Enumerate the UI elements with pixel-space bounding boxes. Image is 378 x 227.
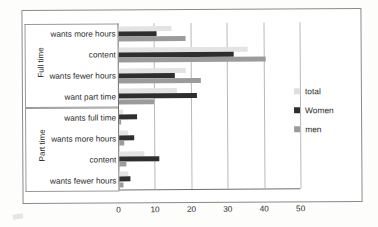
bar-men [119, 78, 201, 84]
category-label: wants fewer hours [49, 71, 116, 80]
bar-men [119, 120, 121, 125]
bar-men [119, 182, 123, 187]
x-axis-line [119, 188, 301, 190]
category-label: wants more hours [50, 29, 115, 38]
bar-men [119, 36, 186, 41]
legend-label: men [305, 124, 321, 134]
legend-swatch-total-icon [294, 88, 300, 94]
category-label: wants fewer hours [50, 176, 117, 185]
x-axis-tick-label: 50 [296, 204, 305, 213]
bar-men [119, 161, 126, 166]
legend-item-women[interactable]: Women [294, 105, 334, 115]
bar-men [119, 99, 154, 104]
chart-legend: total Women men [294, 86, 334, 143]
x-axis-tick-label: 40 [260, 205, 269, 214]
legend-label: total [305, 86, 321, 96]
category-label: wants more hours [51, 134, 116, 143]
category-label: want part time [65, 92, 116, 101]
category-label-column: wants more hours content wants fewer hou… [34, 23, 119, 190]
legend-item-men[interactable]: men [294, 124, 334, 134]
bar-men [119, 57, 266, 63]
legend-label: Women [305, 105, 334, 115]
category-label: wants full time [64, 113, 116, 122]
legend-item-total[interactable]: total [294, 86, 334, 96]
chart-container: Full time Part time wants more hours con… [21, 8, 360, 202]
category-label: content [89, 50, 116, 59]
bar-women [119, 115, 137, 120]
legend-swatch-men-icon [294, 126, 300, 132]
bar-men [119, 141, 124, 146]
x-axis-tick-label: 0 [116, 205, 121, 214]
category-label: content [89, 155, 116, 164]
legend-swatch-women-icon [294, 107, 300, 113]
x-axis-tick-label: 10 [150, 205, 159, 214]
x-axis-tick-label: 30 [223, 205, 232, 214]
x-axis-tick-label: 20 [187, 205, 196, 214]
plot-area: 01020304050 [118, 22, 301, 189]
gridline [263, 23, 265, 189]
